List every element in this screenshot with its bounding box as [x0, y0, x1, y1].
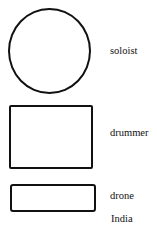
soloist-circle [8, 8, 91, 94]
drone-rectangle [10, 184, 96, 212]
caption-india: India [111, 214, 133, 225]
drone-label: drone [110, 191, 134, 202]
drummer-label: drummer [110, 128, 149, 139]
drummer-rectangle [9, 105, 93, 169]
soloist-label: soloist [110, 46, 137, 57]
